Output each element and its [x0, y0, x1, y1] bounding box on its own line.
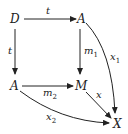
- node-d: D: [10, 13, 20, 25]
- label-t-top: t: [46, 6, 50, 16]
- node-m: M: [75, 80, 87, 92]
- label-t-left: t: [8, 46, 12, 56]
- commutative-diagram: D A A M X t t m1 m2 x x1 x2: [0, 0, 128, 134]
- node-a-left: A: [10, 80, 19, 92]
- label-x: x: [96, 90, 102, 100]
- label-m1: m1: [84, 46, 98, 60]
- label-m2: m2: [43, 88, 57, 102]
- node-x: X: [113, 118, 122, 130]
- label-x2: x2: [46, 112, 56, 126]
- node-a-top: A: [77, 13, 86, 25]
- label-x1: x1: [110, 52, 120, 66]
